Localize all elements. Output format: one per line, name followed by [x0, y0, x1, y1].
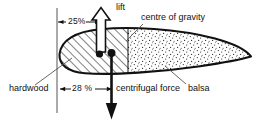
arrow-left-icon [59, 20, 64, 24]
chord-percent-28-label: 28 % [72, 84, 92, 93]
lift-label: lift [116, 3, 125, 12]
airfoil-force-diagram: lift centre of gravity 25% hardwood 28 %… [0, 0, 265, 123]
centre-of-gravity-label: centre of gravity [141, 13, 205, 22]
dot-marker-icon [96, 50, 103, 57]
chord-percent-25-label: 25% [68, 17, 86, 26]
down-arrow-solid-icon [106, 103, 117, 120]
hardwood-label: hardwood [9, 84, 49, 93]
hardwood-leader-line [35, 58, 72, 85]
balsa-label: balsa [188, 84, 210, 93]
arrow-left-icon [60, 87, 65, 91]
diagram-canvas [0, 0, 265, 123]
centrifugal-force-label: centrifugal force [116, 84, 180, 93]
